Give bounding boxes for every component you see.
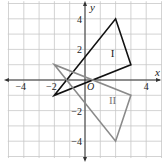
y-tick-label: 4 — [77, 14, 82, 25]
y-axis-arrow-icon — [83, 157, 87, 162]
x-tick-label: 4 — [144, 81, 149, 92]
triangle-II-label: II — [109, 94, 117, 106]
y-tick-label: −2 — [71, 106, 82, 117]
x-tick-label: −2 — [46, 81, 57, 92]
triangle-I-label: I — [111, 47, 115, 59]
y-tick-label: −4 — [71, 136, 82, 147]
x-tick-label: −4 — [15, 81, 26, 92]
y-axis-label: y — [89, 1, 95, 13]
x-axis-arrow-icon — [156, 78, 161, 82]
x-axis-arrow-icon — [4, 78, 9, 82]
coordinate-plane: III −4−2442−2−4Oxy — [0, 0, 162, 163]
y-tick-label: 2 — [77, 44, 82, 55]
x-axis-label: x — [154, 66, 160, 78]
triangle-II — [54, 65, 130, 142]
axis-labels: −4−2442−2−4Oxy — [15, 1, 160, 147]
coordinate-plane-figure: III −4−2442−2−4Oxy — [0, 0, 162, 163]
axes — [4, 1, 161, 162]
origin-label: O — [87, 81, 94, 92]
